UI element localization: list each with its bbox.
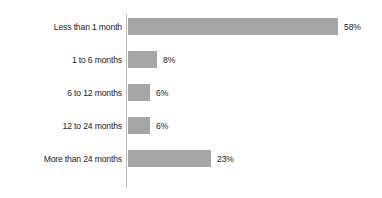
bar-row: 12 to 24 months 6% — [0, 117, 382, 134]
bar-value-label: 23% — [217, 154, 234, 163]
category-label: 6 to 12 months — [4, 88, 122, 97]
bar-chart: Less than 1 month 58% 1 to 6 months 8% 6… — [0, 0, 382, 198]
bar-row: 6 to 12 months 6% — [0, 84, 382, 101]
bar-row: 1 to 6 months 8% — [0, 51, 382, 68]
bar-track: 6% — [128, 84, 382, 101]
bar-track: 6% — [128, 117, 382, 134]
bar-value-label: 6% — [156, 88, 168, 97]
bar-track: 58% — [128, 18, 382, 35]
bar-segment[interactable] — [128, 117, 150, 134]
bar-segment[interactable] — [128, 18, 338, 35]
bar-segment[interactable] — [128, 51, 157, 68]
bar-track: 8% — [128, 51, 382, 68]
bar-segment[interactable] — [128, 84, 150, 101]
bar-track: 23% — [128, 150, 382, 167]
bar-value-label: 58% — [344, 22, 361, 31]
bar-row: More than 24 months 23% — [0, 150, 382, 167]
bar-row: Less than 1 month 58% — [0, 18, 382, 35]
category-label: More than 24 months — [4, 154, 122, 163]
category-label: Less than 1 month — [4, 22, 122, 31]
category-label: 12 to 24 months — [4, 121, 122, 130]
bar-value-label: 6% — [156, 121, 168, 130]
bar-segment[interactable] — [128, 150, 211, 167]
bar-value-label: 8% — [163, 55, 175, 64]
category-label: 1 to 6 months — [4, 55, 122, 64]
